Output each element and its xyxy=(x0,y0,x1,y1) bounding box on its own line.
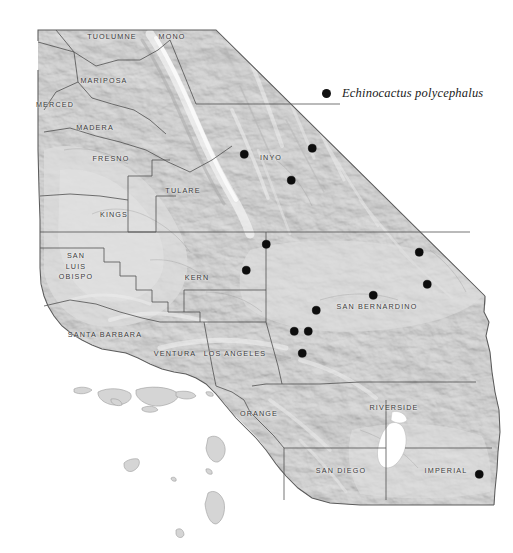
occurrence-dot xyxy=(312,306,320,314)
occurrence-dot xyxy=(415,248,423,256)
occurrence-dot xyxy=(242,266,250,274)
legend-symbol-filled-circle xyxy=(322,89,331,98)
terrain-relief xyxy=(0,0,513,553)
species-distribution-map: TUOLUMNEMONOMARIPOSAMERCEDMADERAFRESNOTU… xyxy=(0,0,513,553)
occurrence-dot xyxy=(240,150,248,158)
legend: Echinocactus polycephalus xyxy=(322,86,483,101)
occurrence-dot xyxy=(308,144,316,152)
occurrence-dot xyxy=(475,470,483,478)
occurrence-dot xyxy=(369,291,377,299)
occurrence-dot xyxy=(262,240,270,248)
occurrence-dot xyxy=(298,349,306,357)
occurrence-dot xyxy=(304,327,312,335)
occurrence-dot xyxy=(287,176,295,184)
occurrence-dot xyxy=(423,280,431,288)
occurrence-dot xyxy=(290,327,298,335)
channel-islands xyxy=(74,387,225,537)
legend-species-label: Echinocactus polycephalus xyxy=(342,86,483,101)
map-terrain-canvas xyxy=(0,0,513,553)
